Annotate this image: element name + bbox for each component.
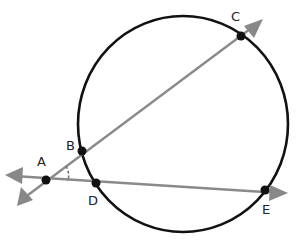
label-E: E bbox=[262, 202, 270, 217]
arrowhead-left-upper-icon bbox=[5, 167, 23, 184]
secant-line-ABC bbox=[24, 26, 254, 198]
point-A bbox=[42, 176, 51, 185]
label-B: B bbox=[66, 138, 75, 153]
circle bbox=[78, 16, 288, 232]
secant-line-ADE bbox=[14, 176, 280, 193]
point-E bbox=[261, 186, 270, 195]
point-B bbox=[78, 147, 87, 156]
arrowhead-C-icon bbox=[244, 19, 263, 38]
arrowhead-E-icon bbox=[269, 185, 288, 201]
point-C bbox=[237, 32, 246, 41]
point-D bbox=[92, 179, 101, 188]
label-D: D bbox=[88, 193, 98, 208]
secant-diagram: A B C D E bbox=[0, 0, 299, 242]
label-A: A bbox=[37, 154, 46, 169]
arrowhead-left-lower-icon bbox=[17, 187, 33, 206]
label-C: C bbox=[231, 9, 240, 24]
